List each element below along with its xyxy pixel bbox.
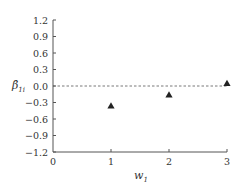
- chart-canvas: 1.20.90.60.30.0−0.3−0.6−0.9−1.2 0123 β̂1…: [0, 0, 241, 188]
- x-tick-label: 1: [108, 156, 114, 167]
- y-tick-label: 1.2: [33, 15, 48, 26]
- y-axis-ticks: 1.20.90.60.30.0−0.3−0.6−0.9−1.2: [25, 15, 56, 158]
- triangle-marker: [223, 80, 230, 86]
- y-tick-label: 0.6: [33, 48, 48, 59]
- y-tick-label: −0.6: [25, 114, 48, 125]
- y-axis-label: β̂1i: [11, 79, 25, 94]
- triangle-marker: [107, 102, 114, 108]
- triangle-marker: [165, 91, 172, 97]
- x-tick-label: 3: [224, 156, 230, 167]
- y-tick-label: −0.9: [25, 130, 48, 141]
- x-axis-label: w1: [134, 169, 148, 184]
- y-tick-label: −1.2: [25, 147, 48, 158]
- y-tick-label: 0.0: [33, 81, 48, 92]
- data-points: [107, 80, 230, 109]
- y-tick-label: −0.3: [25, 97, 48, 108]
- x-tick-label: 2: [166, 156, 172, 167]
- y-tick-label: 0.9: [33, 31, 48, 42]
- x-tick-label: 0: [50, 156, 56, 167]
- y-tick-label: 0.3: [33, 64, 48, 75]
- scatter-chart: 1.20.90.60.30.0−0.3−0.6−0.9−1.2 0123 β̂1…: [0, 0, 241, 188]
